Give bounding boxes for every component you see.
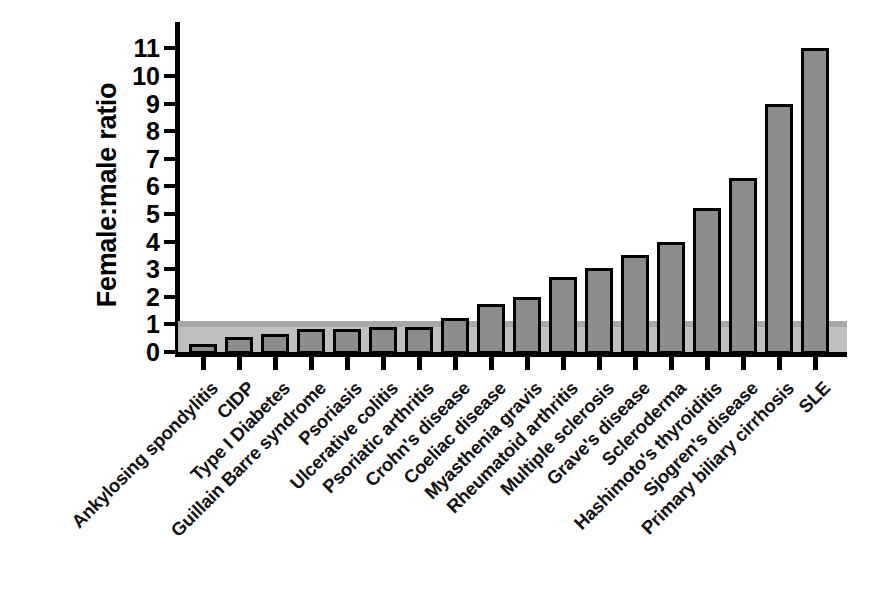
bar[interactable]	[585, 268, 613, 354]
y-tick-0: 0	[164, 350, 175, 354]
y-tick-6: 6	[164, 184, 175, 188]
bar[interactable]	[297, 329, 325, 354]
y-tick-label: 4	[146, 229, 160, 254]
x-axis-label: Myasthenia gravis	[107, 377, 547, 599]
y-tick-label: 1	[146, 312, 160, 337]
x-tick	[525, 357, 530, 370]
x-axis-label: Grave's disease	[215, 377, 655, 599]
x-tick	[309, 357, 314, 370]
x-tick	[417, 357, 422, 370]
y-tick-label: 3	[146, 257, 160, 282]
x-axis-label: Crohn's disease	[35, 377, 475, 599]
x-tick	[561, 357, 566, 370]
bar[interactable]	[405, 327, 433, 354]
y-tick-2: 2	[164, 295, 175, 299]
plot-area: 01234567891011	[175, 22, 847, 357]
bar[interactable]	[333, 329, 361, 354]
x-axis-label: Rheumatoid arthritis	[143, 377, 583, 599]
x-tick	[813, 357, 818, 370]
bar[interactable]	[693, 208, 721, 354]
y-tick-1: 1	[164, 322, 175, 326]
y-tick-label: 10	[132, 64, 160, 89]
bar[interactable]	[225, 337, 253, 354]
x-tick	[741, 357, 746, 370]
bar[interactable]	[441, 318, 469, 355]
x-tick	[705, 357, 710, 370]
y-tick-7: 7	[164, 157, 175, 161]
x-axis-label: SLE	[395, 377, 835, 599]
bar[interactable]	[621, 255, 649, 354]
x-tick	[669, 357, 674, 370]
y-tick-8: 8	[164, 129, 175, 133]
y-tick-label: 0	[146, 340, 160, 365]
y-tick-label: 2	[146, 284, 160, 309]
x-tick	[453, 357, 458, 370]
y-axis-spine	[175, 22, 180, 357]
y-tick-label: 7	[146, 146, 160, 171]
bar[interactable]	[261, 334, 289, 354]
x-axis-label: Scleroderma	[251, 377, 691, 599]
x-tick	[201, 357, 206, 370]
y-tick-label: 5	[146, 202, 160, 227]
x-axis-label: Ulcerative colitis	[0, 377, 403, 599]
bar[interactable]	[513, 297, 541, 354]
x-axis-label: Sjogren's disease	[323, 377, 763, 599]
x-axis-label: Ankylosing spondylitis	[0, 377, 223, 599]
y-tick-label: 9	[146, 91, 160, 116]
y-tick-label: 8	[146, 119, 160, 144]
x-tick	[597, 357, 602, 370]
x-tick	[273, 357, 278, 370]
bar[interactable]	[657, 242, 685, 354]
bar[interactable]	[729, 178, 757, 354]
x-axis-label: Primary biliary cirrhosis	[359, 377, 799, 599]
y-axis-title: Female:male ratio	[92, 83, 123, 308]
x-axis-label: Hashimoto's thyroiditis	[287, 377, 727, 599]
y-tick-9: 9	[164, 102, 175, 106]
bar[interactable]	[549, 277, 577, 354]
x-tick	[777, 357, 782, 370]
bar[interactable]	[765, 104, 793, 354]
x-axis-label: Type I Diabetes	[0, 377, 295, 599]
x-axis-label: Multiple sclerosis	[179, 377, 619, 599]
x-axis-label: Coeliac disease	[71, 377, 511, 599]
x-tick	[237, 357, 242, 370]
x-tick	[633, 357, 638, 370]
bar[interactable]	[477, 304, 505, 354]
y-tick-10: 10	[164, 74, 175, 78]
bar[interactable]	[369, 327, 397, 354]
x-axis-label: Psoriasis	[0, 377, 367, 599]
y-tick-3: 3	[164, 267, 175, 271]
x-axis-label: Psoriatic arthritis	[0, 377, 439, 599]
chart-figure: Female:male ratio 01234567891011 Ankylos…	[0, 0, 871, 599]
y-axis-title-container: Female:male ratio	[86, 35, 128, 355]
x-axis-label: CIDP	[0, 377, 259, 599]
y-tick-label: 11	[134, 36, 160, 61]
x-axis-label: Guillain Barre syndrome	[0, 377, 331, 599]
x-tick	[381, 357, 386, 370]
bar[interactable]	[189, 344, 217, 354]
y-tick-11: 11	[164, 46, 175, 50]
bar[interactable]	[801, 48, 829, 354]
y-tick-4: 4	[164, 240, 175, 244]
x-tick	[489, 357, 494, 370]
x-tick	[345, 357, 350, 370]
y-tick-label: 6	[146, 174, 160, 199]
y-tick-5: 5	[164, 212, 175, 216]
